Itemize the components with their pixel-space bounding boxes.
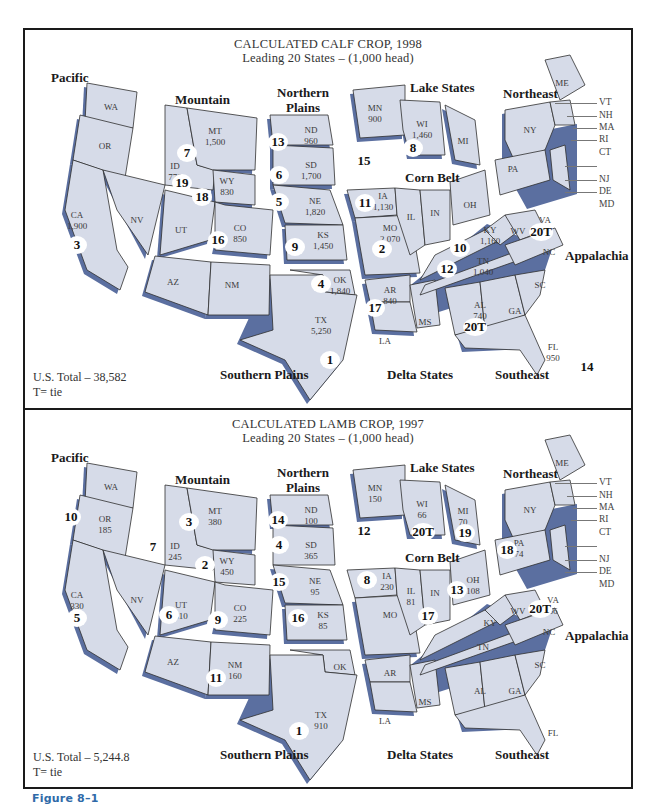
state-label-mo: MO [383,610,398,621]
state-label-ia: IA230 [380,571,394,593]
state-label-mt: MT1,500 [205,126,225,148]
rank-badge-mo: 2 [372,240,392,258]
callout-md: MD [599,579,614,589]
state-label-sd: SD365 [304,540,318,562]
callout-line [565,192,597,193]
rank-badge-mt: 7 [177,144,197,162]
lamb-crop-map-panel: CALCULATED LAMB CROP, 1997 Leading 20 St… [23,408,633,789]
callout-line [565,572,597,573]
state-label-nv: NV [131,215,144,226]
callout-md: MD [599,199,614,209]
rank-badge-sd: 6 [269,166,289,184]
state-label-sd: SD1,700 [301,160,321,182]
region-pacific: Pacific [51,450,89,465]
rank-badge-or: 10 [61,508,81,526]
callout-line [565,166,597,167]
state-label-ar: AR [384,668,397,679]
rank-badge-va: 20T [529,223,553,241]
callout-line [567,496,597,497]
rank-badge-mn: 15 [354,152,374,170]
state-label-fl: FL950 [546,342,560,364]
state-label-in: IN [430,588,440,599]
state-label-ga: GA [509,306,522,317]
region-southeast: Southeast [495,747,549,762]
state-label-la: LA [379,716,391,727]
state-label-co: CO850 [233,223,247,245]
callout-line [565,560,597,561]
region-pacific: Pacific [51,70,89,85]
state-label-il: IL81 [407,586,416,608]
state-label-pa: PA [508,164,519,175]
rank-badge-co: 9 [208,611,228,629]
region-southern-plains: Southern Plains [220,367,309,382]
callout-nh: NH [599,490,613,500]
state-label-ky: KY [484,618,497,629]
rank-badge-co: 16 [208,231,228,249]
state-label-ky: KY1,160 [480,225,500,247]
state-label-ca: CA1,900 [67,210,87,232]
state-label-wy: WY450 [220,556,235,578]
region-northeast: Northeast [503,466,558,481]
state-label-ny: NY [524,505,537,516]
state-label-me: ME [555,458,569,469]
region-northern-plains: Northern Plains [273,85,333,115]
tie-legend-lamb: T= tie [33,765,62,780]
rank-badge-id: 19 [172,174,192,192]
region-mountain: Mountain [175,472,230,487]
callout-ri: RI [599,514,609,524]
state-label-mn: MN150 [368,483,383,505]
figure-caption: Figure 8–1 [32,792,99,805]
lamb-map-subtitle: Leading 20 States – (1,000 head) [25,431,631,446]
state-label-nm: NM160 [228,660,243,682]
state-label-az: AZ [167,657,179,668]
state-label-me: ME [555,78,569,89]
state-label-la: LA [379,336,391,347]
state-label-tn: TN [477,642,489,653]
callout-line [555,483,597,484]
us-total-calf: U.S. Total – 38,582 [33,370,127,385]
state-label-ok: OK [334,662,347,673]
state-label-ar: AR840 [383,285,397,307]
region-northern-plains: Northern Plains [273,465,333,495]
state-label-ne: NE1,820 [305,196,325,218]
callout-line [567,116,597,117]
rank-badge-tx: 1 [289,722,309,740]
state-label-ks: KS85 [317,610,329,632]
region-northeast: Northeast [503,86,558,101]
rank-badge-nm: 11 [206,669,226,687]
state-label-ms: MS [418,317,431,328]
rank-badge-ca: 3 [67,236,87,254]
state-label-or: OR [99,141,112,152]
rank-badge-id: 7 [143,538,163,556]
region-southeast: Southeast [495,367,549,382]
rank-badge-wy: 18 [192,188,212,206]
state-label-nc: NC [543,247,556,258]
state-label-az: AZ [167,277,179,288]
state-label-or: OR185 [98,514,112,536]
state-label-wv: WV [511,606,526,617]
state-label-co: CO225 [233,603,247,625]
state-label-ut: UT [175,225,187,236]
state-label-fl: FL [548,728,559,739]
state-label-ne: NE95 [309,576,321,598]
region-corn-belt: Corn Belt [405,170,460,185]
calf-crop-map-panel: CALCULATED CALF CROP, 1998 Leading 20 St… [23,28,633,410]
state-label-nv: NV [131,595,144,606]
rank-badge-wi: 20T [411,523,435,541]
rank-badge-nd: 13 [268,133,288,151]
state-label-sc: SC [534,280,545,291]
rank-badge-ia: 11 [355,194,375,212]
rank-badge-mn: 12 [354,522,374,540]
state-label-tn: TN1,040 [473,256,493,278]
state-label-sc: SC [534,660,545,671]
state-label-ms: MS [418,697,431,708]
rank-badge-ar: 17 [365,299,385,317]
region-corn-belt: Corn Belt [405,550,460,565]
rank-badge-fl: 14 [577,358,597,376]
rank-badge-nd: 14 [268,511,288,529]
rank-badge-ne: 5 [269,193,289,211]
calf-map-subtitle: Leading 20 States – (1,000 head) [25,51,631,66]
rank-badge-tn: 12 [437,260,457,278]
callout-nj: NJ [599,554,610,564]
state-label-wa: WA [104,102,118,113]
